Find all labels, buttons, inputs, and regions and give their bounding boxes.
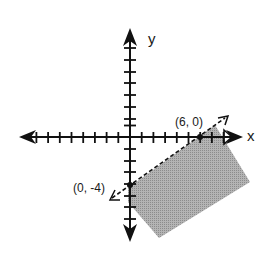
point-0-neg4 [127,182,133,188]
boundary-arrow-lower-icon [110,190,120,200]
point-6-0 [197,134,203,140]
inequality-graph [0,0,271,257]
x-axis-label: x [247,127,255,144]
point-label-0-neg4: (0, -4) [73,181,105,195]
boundary-arrow-upper-icon [218,116,228,125]
y-axis-label: y [148,30,156,47]
point-label-6-0: (6, 0) [175,115,203,129]
